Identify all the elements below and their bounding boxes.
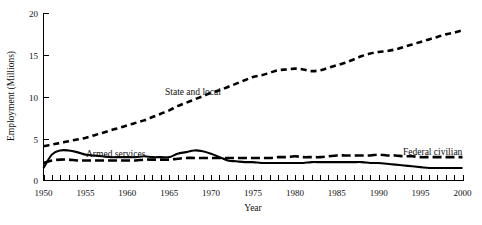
x-tick-label-1980: 1980 <box>286 188 305 198</box>
employment-line-chart: Employment (Millions) 20 15 10 5 0 1950 … <box>0 0 482 225</box>
series-state-and-local <box>44 30 463 146</box>
x-tick-label-1970: 1970 <box>202 188 221 198</box>
x-tick-label-1965: 1965 <box>160 188 179 198</box>
y-tick-label-5: 5 <box>34 135 39 145</box>
annotation-state-and-local: State and local <box>165 87 221 97</box>
y-axis-title: Employment (Millions) <box>6 51 17 141</box>
y-tick-label-0: 0 <box>34 176 39 186</box>
x-tick-label-1955: 1955 <box>76 188 95 198</box>
y-tick-marks <box>44 14 50 181</box>
chart-figure: Employment (Millions) 20 15 10 5 0 1950 … <box>0 0 482 225</box>
annotation-armed-services: Armed services <box>86 149 146 159</box>
y-tick-label-20: 20 <box>29 9 39 19</box>
x-tick-label-2000: 2000 <box>454 188 473 198</box>
x-tick-label-1985: 1985 <box>328 188 347 198</box>
y-tick-label-10: 10 <box>29 93 39 103</box>
x-tick-label-1995: 1995 <box>412 188 431 198</box>
x-tick-label-1950: 1950 <box>35 188 54 198</box>
y-tick-label-15: 15 <box>29 51 39 61</box>
x-tick-label-1990: 1990 <box>370 188 389 198</box>
annotation-federal-civilian: Federal civilian <box>403 147 463 157</box>
x-axis-title: Year <box>244 203 262 213</box>
x-tick-label-1960: 1960 <box>118 188 137 198</box>
x-tick-marks <box>45 175 464 181</box>
x-tick-label-1975: 1975 <box>244 188 263 198</box>
